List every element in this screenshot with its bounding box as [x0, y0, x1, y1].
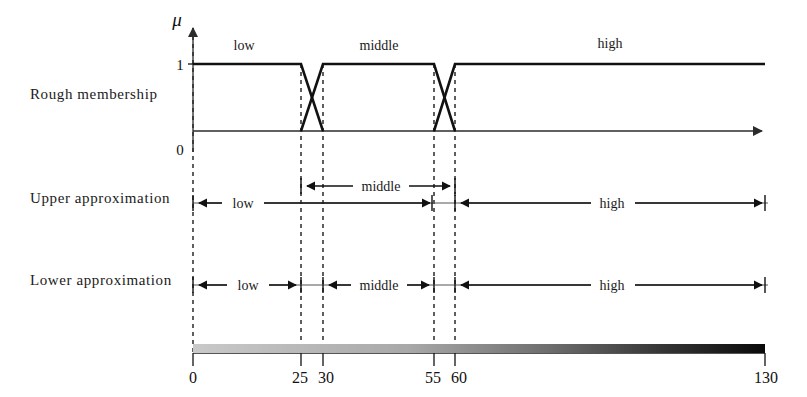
domain-axis: 0 25 30 55 60 130: [189, 344, 778, 386]
mu-axis-symbol: μ: [171, 9, 182, 30]
x-tick-label-30: 30: [318, 369, 334, 386]
y-tick-label-1: 1: [176, 57, 184, 73]
x-tick-label-0: 0: [189, 369, 197, 386]
membership-label-high: high: [598, 36, 623, 51]
membership-label-low: low: [234, 38, 256, 53]
lower-label-high: high: [600, 278, 625, 293]
x-tick-label-60: 60: [451, 369, 467, 386]
membership-curve-middle: [301, 64, 455, 131]
lower-label-middle: middle: [360, 278, 399, 293]
x-tick-label-25: 25: [292, 369, 308, 386]
membership-label-middle: middle: [360, 38, 399, 53]
upper-label-middle: middle: [362, 179, 401, 194]
upper-label-low: low: [233, 196, 255, 211]
row-label-lower-approximation: Lower approximation: [30, 272, 172, 288]
rough-membership-plot: μ 1 0 low middle high: [171, 9, 765, 158]
lower-label-low: low: [238, 278, 260, 293]
upper-label-high: high: [600, 196, 625, 211]
guide-lines: [193, 28, 455, 352]
upper-approximation-row: low middle high: [193, 177, 768, 211]
domain-gradient-bar: [193, 344, 765, 353]
figure-canvas: Rough membership Upper approximation Low…: [0, 0, 807, 397]
lower-approximation-row: low middle high: [193, 276, 768, 293]
rough-set-figure: Rough membership Upper approximation Low…: [0, 0, 807, 397]
membership-curve-high: [434, 64, 765, 131]
x-tick-label-55: 55: [425, 369, 441, 386]
row-label-rough-membership: Rough membership: [30, 86, 158, 102]
y-tick-label-0: 0: [176, 142, 184, 158]
x-tick-label-130: 130: [754, 369, 778, 386]
row-label-upper-approximation: Upper approximation: [30, 190, 170, 206]
